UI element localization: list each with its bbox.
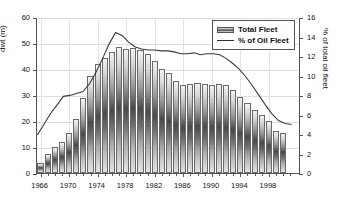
plot-area: Total Fleet % of Oil Fleet [36,18,300,174]
y-axis-right-tick [299,116,303,117]
x-axis-tick [119,173,120,176]
y-axis-left-tick-label: 10 [8,144,30,152]
x-axis-tick [190,173,191,176]
x-axis-tick [126,173,127,177]
x-axis-tick [162,173,163,176]
x-axis-tick [48,173,49,176]
y-axis-right-tick [299,57,303,58]
legend-item-pct-oil-fleet: % of Oil Fleet [217,35,289,46]
legend-label-pct-oil-fleet: % of Oil Fleet [238,37,289,45]
x-axis-tick [183,173,184,177]
x-axis-tick-label: 1970 [54,182,82,190]
x-axis-tick [205,173,206,176]
y-axis-left-tick-label: 0 [8,170,30,178]
chart-legend: Total Fleet % of Oil Fleet [212,20,295,50]
y-axis-left-tick-label: 20 [8,118,30,126]
x-axis-tick [269,173,270,177]
x-axis-tick [105,173,106,176]
y-axis-left-tick [33,174,37,175]
x-axis-tick [112,173,113,176]
y-axis-right-tick [299,174,303,175]
x-axis-tick-label: 1982 [140,182,168,190]
x-axis-tick [62,173,63,176]
y-axis-right-tick [299,135,303,136]
y-axis-right-tick-label: 0 [307,170,329,178]
y-axis-left-tick-label: 50 [8,40,30,48]
y-axis-right-tick-label: 10 [307,73,329,81]
y-axis-right-tick-label: 6 [307,112,329,120]
y-axis-right-tick [299,38,303,39]
x-axis-tick [91,173,92,176]
x-axis-tick [133,173,134,176]
x-axis-tick [219,173,220,176]
x-axis-tick [276,173,277,176]
x-axis-tick [240,173,241,177]
y-axis-right-tick-label: 14 [307,34,329,42]
x-axis-tick [255,173,256,176]
x-axis-tick-label: 1974 [83,182,111,190]
y-axis-left-tick-label: 40 [8,66,30,74]
x-axis-tick-label: 1994 [225,182,253,190]
x-axis-tick-label: 1978 [111,182,139,190]
x-axis-tick [83,173,84,176]
y-axis-right-tick-label: 8 [307,92,329,100]
x-axis-tick-label: 1990 [197,182,225,190]
x-axis-tick [76,173,77,176]
legend-item-total-fleet: Total Fleet [217,24,289,35]
y-axis-right-tick-label: 12 [307,53,329,61]
y-axis-right-tick [299,77,303,78]
x-axis-tick [247,173,248,176]
x-axis-tick-label: 1998 [254,182,282,190]
y-axis-right-tick [299,155,303,156]
x-axis-tick [155,173,156,177]
x-axis-tick [69,173,70,177]
x-axis-tick-label: 1986 [168,182,196,190]
y-axis-left-tick-label: 60 [8,14,30,22]
y-axis-right-tick-label: 2 [307,151,329,159]
y-axis-right-tick-label: 4 [307,131,329,139]
x-axis-tick [226,173,227,176]
line-swatch-icon [217,40,234,41]
y-axis-left-tick-label: 30 [8,92,30,100]
x-axis-tick [198,173,199,176]
legend-label-total-fleet: Total Fleet [238,26,277,34]
x-axis-tick [290,173,291,176]
x-axis-tick [233,173,234,176]
x-axis-tick [55,173,56,176]
x-axis-tick [262,173,263,176]
x-axis-tick-label: 1966 [26,182,54,190]
x-axis-tick [98,173,99,177]
x-axis-tick [176,173,177,176]
x-axis-tick [212,173,213,177]
x-axis-tick [140,173,141,176]
x-axis-tick [148,173,149,176]
bar-swatch-icon [217,27,234,33]
y-axis-left-title: dwt (m) [0,25,7,52]
chart-figure: dwt (m) % of total oil fleet Total Fleet… [0,0,354,206]
y-axis-right-tick [299,18,303,19]
x-axis-tick [41,173,42,177]
y-axis-right-tick-label: 16 [307,14,329,22]
y-axis-right-tick [299,96,303,97]
x-axis-tick [169,173,170,176]
x-axis-tick [283,173,284,176]
